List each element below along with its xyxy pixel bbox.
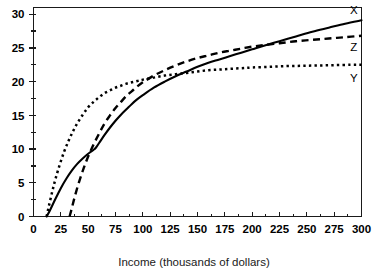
- axis-frame-path: [34, 8, 362, 217]
- data-series-layer: [47, 20, 362, 216]
- x-tick-label-150: 150: [188, 223, 207, 235]
- y-tick-label-10: 10: [12, 143, 25, 155]
- x-tick-label-275: 275: [325, 223, 345, 235]
- chart-figure: 0255075100125150175200225250275300 05101…: [0, 0, 388, 273]
- series-label-X: X: [350, 4, 358, 16]
- y-tick-label-0: 0: [18, 211, 24, 223]
- plot-frame: [34, 8, 362, 217]
- x-tick-label-200: 200: [243, 223, 262, 235]
- x-tick-label-75: 75: [109, 223, 122, 235]
- x-tick-label-100: 100: [133, 223, 152, 235]
- series-label-Z: Z: [350, 41, 357, 53]
- x-axis-tick-labels: 0255075100125150175200225250275300: [30, 223, 371, 235]
- series-annotation-layer: XZY: [350, 4, 358, 83]
- x-tick-label-250: 250: [297, 223, 316, 235]
- x-axis-major-ticks: [34, 212, 362, 217]
- x-tick-label-175: 175: [215, 223, 235, 235]
- series-curve-X: [47, 20, 362, 216]
- y-tick-label-25: 25: [12, 42, 25, 54]
- x-tick-label-300: 300: [352, 223, 371, 235]
- series-label-Y: Y: [350, 72, 358, 84]
- y-tick-label-5: 5: [18, 177, 25, 189]
- x-tick-label-50: 50: [82, 223, 95, 235]
- x-tick-label-225: 225: [270, 223, 290, 235]
- y-axis-major-ticks: [29, 14, 36, 216]
- x-tick-label-25: 25: [54, 223, 67, 235]
- series-curve-Z: [70, 36, 362, 217]
- chart-canvas: 0255075100125150175200225250275300 05101…: [0, 0, 388, 273]
- y-tick-label-30: 30: [12, 8, 25, 20]
- y-tick-label-20: 20: [12, 76, 25, 88]
- x-axis-title: Income (thousands of dollars): [118, 256, 270, 268]
- series-curve-Y: [47, 65, 362, 217]
- x-tick-label-125: 125: [161, 223, 181, 235]
- x-tick-label-0: 0: [30, 223, 36, 235]
- y-tick-label-15: 15: [12, 110, 25, 122]
- y-axis-tick-labels: 051015202530: [12, 8, 25, 222]
